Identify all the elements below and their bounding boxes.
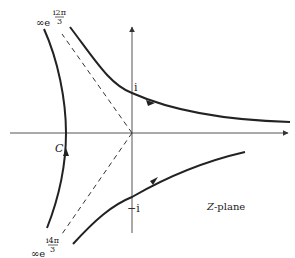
- lower-infinity-exp-bottom: 3: [50, 245, 55, 254]
- upper-steepest-path: [70, 27, 290, 122]
- lower-steepest-path: [73, 152, 245, 244]
- contour-c: [44, 29, 66, 228]
- lower-imag-label: −i: [127, 202, 140, 215]
- dashed-ray-upper: [62, 34, 132, 133]
- plane-label-rest: -plane: [214, 201, 245, 212]
- plane-label: Z-plane: [206, 201, 245, 212]
- lower-infinity-label: ∞e i4π 3: [31, 236, 59, 258]
- contour-label: C: [55, 142, 64, 155]
- upper-infinity-prefix: ∞e: [36, 17, 50, 28]
- upper-infinity-exp-bottom: 3: [57, 17, 62, 26]
- upper-infinity-label: ∞e i2π 3: [36, 8, 66, 28]
- upper-imag-label: i: [134, 81, 138, 94]
- lower-infinity-prefix: ∞e: [31, 248, 45, 258]
- contour-c-arrow-icon: [63, 148, 69, 156]
- lower-infinity-exp-top: i4π: [46, 236, 59, 245]
- z-plane-diagram: i −i C Z-plane ∞e i2π 3 ∞e i4π 3: [0, 0, 295, 258]
- upper-infinity-exp-top: i2π: [53, 8, 66, 17]
